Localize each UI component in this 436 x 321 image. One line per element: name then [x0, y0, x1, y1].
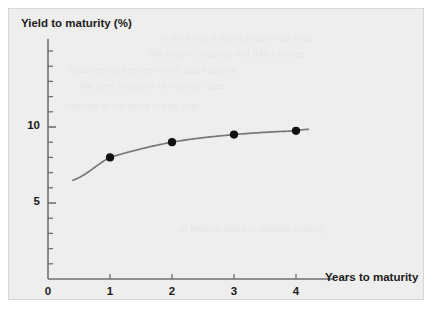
x-axis-tick-label: 4: [284, 285, 308, 297]
chart-figure: of the bond is the discount rate that th…: [8, 8, 424, 300]
y-axis-title: Yield to maturity (%): [21, 17, 132, 29]
axes: [48, 39, 333, 279]
y-axis-tick-label: 5: [18, 195, 40, 207]
x-axis-title: Years to maturity: [325, 271, 418, 283]
data-point-marker: [168, 138, 176, 146]
x-axis-tick-label: 0: [36, 285, 60, 297]
x-axis-tick-label: 1: [98, 285, 122, 297]
x-axis-tick-label: 2: [160, 285, 184, 297]
plot-area: [9, 9, 424, 300]
y-axis-tick-label: 10: [18, 119, 40, 131]
data-point-marker: [230, 131, 238, 139]
data-point-marker: [106, 153, 114, 161]
data-point-marker: [292, 127, 300, 135]
x-axis-tick-label: 3: [222, 285, 246, 297]
data-series: [73, 127, 309, 180]
